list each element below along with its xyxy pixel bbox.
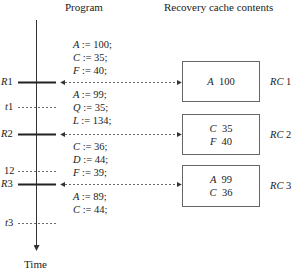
time-label: Time — [24, 258, 47, 270]
cache-header: Recovery cache contents — [164, 1, 273, 13]
time-mark-t2: 12 — [4, 165, 15, 176]
time-mark-t1: t1 — [5, 101, 13, 112]
code-segment-2: A := 99; Q := 35; L := 134; — [73, 88, 111, 127]
code-segment-4: A := 89; C := 44; — [73, 190, 108, 216]
cache-label-rc1: RC 1 — [270, 76, 291, 87]
recovery-point-r3: R3 — [1, 178, 13, 189]
recovery-point-r1: R1 — [1, 76, 13, 87]
cache-label-rc2: RC 2 — [270, 129, 291, 140]
diagram-lines — [0, 0, 306, 273]
recovery-cache-1: A 100 — [182, 61, 260, 102]
program-header: Program — [65, 1, 103, 13]
recovery-cache-2: C 35 F 40 — [182, 114, 260, 155]
recovery-cache-3: A 99 C 36 — [182, 165, 260, 207]
code-segment-3: C := 36; D := 44; F := 39; — [73, 140, 108, 179]
time-mark-t3: t3 — [5, 217, 13, 228]
recovery-point-r2: R2 — [1, 128, 13, 139]
cache-label-rc3: RC 3 — [270, 180, 291, 191]
code-segment-1: A := 100; C := 35; F := 40; — [73, 38, 112, 77]
